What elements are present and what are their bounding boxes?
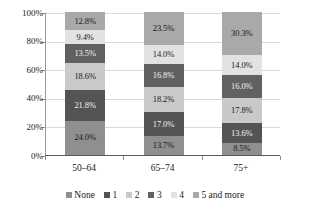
bar-segment[interactable]: 14.0% xyxy=(144,45,184,64)
plot-area: 24.0%21.8%18.6%13.5%9.4%12.8%13.7%17.0%1… xyxy=(45,13,280,156)
y-axis-tick-label: 80% xyxy=(3,37,43,46)
legend-swatch-icon xyxy=(148,192,154,198)
x-axis-tick-label: 75+ xyxy=(206,163,276,174)
bar-segment[interactable]: 17.0% xyxy=(144,112,184,136)
chart-legend: None12345 and more xyxy=(0,190,310,200)
bar-segment-value-label: 14.0% xyxy=(153,50,174,59)
x-axis-tick-label: 65–74 xyxy=(128,163,198,174)
bar-segment-value-label: 16.0% xyxy=(231,82,252,91)
bar-segment[interactable]: 14.0% xyxy=(222,55,262,75)
legend-item[interactable]: 2 xyxy=(126,190,139,200)
bar-segment[interactable]: 21.8% xyxy=(65,90,105,121)
legend-swatch-icon xyxy=(126,192,132,198)
bar-segment[interactable]: 12.8% xyxy=(65,12,105,30)
bar-75+[interactable]: 8.5%13.6%17.8%16.0%14.0%30.3% xyxy=(222,12,262,155)
bar-segment-value-label: 30.3% xyxy=(231,29,252,38)
legend-item[interactable]: None xyxy=(66,190,95,200)
bar-segment-value-label: 9.4% xyxy=(77,33,94,42)
bar-segment-value-label: 14.0% xyxy=(231,61,252,70)
legend-item-label: 5 and more xyxy=(201,190,244,200)
bar-segment[interactable]: 8.5% xyxy=(222,143,262,155)
bar-segment-value-label: 17.8% xyxy=(231,106,252,115)
bar-segment[interactable]: 16.8% xyxy=(144,64,184,87)
bar-segment[interactable]: 18.2% xyxy=(144,87,184,112)
y-axis-tick-label: 40% xyxy=(3,94,43,103)
bar-segment-value-label: 18.6% xyxy=(74,72,95,81)
legend-item[interactable]: 3 xyxy=(148,190,161,200)
bar-65–74[interactable]: 13.7%17.0%18.2%16.8%14.0%23.5% xyxy=(144,12,184,155)
bar-segment-value-label: 13.6% xyxy=(231,129,252,138)
x-axis-tick-label: 50–64 xyxy=(49,163,119,174)
bar-segment[interactable]: 13.7% xyxy=(144,136,184,155)
legend-item-label: 2 xyxy=(135,190,140,200)
y-axis-tick-label: 0% xyxy=(3,152,43,161)
bar-segment-value-label: 16.8% xyxy=(153,71,174,80)
legend-item-label: None xyxy=(74,190,95,200)
bar-segment-value-label: 13.7% xyxy=(153,141,174,150)
bar-segment-value-label: 21.8% xyxy=(74,101,95,110)
bar-segment-value-label: 17.0% xyxy=(153,120,174,129)
bar-segment[interactable]: 16.0% xyxy=(222,75,262,98)
legend-swatch-icon xyxy=(104,192,110,198)
y-axis-tick-label: 60% xyxy=(3,66,43,75)
bar-segment-value-label: 23.5% xyxy=(153,24,174,33)
x-axis-tick-mark xyxy=(123,156,124,160)
bar-segment-value-label: 24.0% xyxy=(74,133,95,142)
x-axis-tick-mark xyxy=(280,156,281,160)
legend-item-label: 3 xyxy=(157,190,162,200)
legend-item[interactable]: 1 xyxy=(104,190,117,200)
y-axis-tick-label: 20% xyxy=(3,123,43,132)
legend-swatch-icon xyxy=(66,192,72,198)
bar-50–64[interactable]: 24.0%21.8%18.6%13.5%9.4%12.8% xyxy=(65,12,105,155)
bar-segment[interactable]: 13.5% xyxy=(65,44,105,63)
bar-segment-value-label: 12.8% xyxy=(74,17,95,26)
bar-segment-value-label: 18.2% xyxy=(153,95,174,104)
bar-segment[interactable]: 24.0% xyxy=(65,121,105,155)
legend-item-label: 4 xyxy=(179,190,184,200)
x-axis-tick-mark xyxy=(202,156,203,160)
legend-item[interactable]: 4 xyxy=(171,190,184,200)
bar-segment[interactable]: 23.5% xyxy=(144,12,184,45)
legend-item-label: 1 xyxy=(112,190,117,200)
bar-segment[interactable]: 13.6% xyxy=(222,123,262,142)
y-axis-tick-label: 100% xyxy=(3,9,43,18)
bar-segment[interactable]: 17.8% xyxy=(222,98,262,123)
bar-segment[interactable]: 30.3% xyxy=(222,12,262,55)
legend-swatch-icon xyxy=(193,192,199,198)
legend-swatch-icon xyxy=(171,192,177,198)
legend-item[interactable]: 5 and more xyxy=(193,190,244,200)
x-axis-tick-mark xyxy=(45,156,46,160)
stacked-bar-chart: 24.0%21.8%18.6%13.5%9.4%12.8%13.7%17.0%1… xyxy=(0,0,310,215)
bar-segment-value-label: 13.5% xyxy=(74,49,95,58)
bar-segment-value-label: 8.5% xyxy=(233,144,250,153)
bar-segment[interactable]: 9.4% xyxy=(65,30,105,43)
bar-segment[interactable]: 18.6% xyxy=(65,63,105,90)
